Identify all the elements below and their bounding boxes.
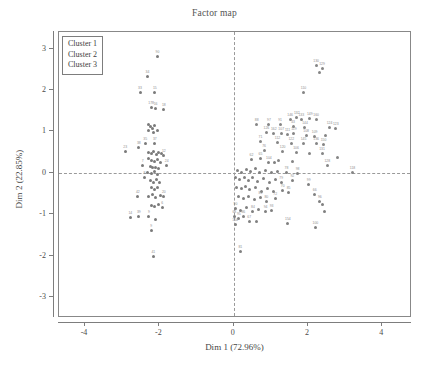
legend-item-cluster-1[interactable]: Cluster 1 — [68, 39, 97, 50]
data-point — [153, 91, 156, 94]
data-point — [274, 197, 277, 200]
data-point — [268, 181, 271, 184]
data-point — [291, 179, 294, 182]
legend: Cluster 1 Cluster 2 Cluster 3 — [62, 36, 103, 75]
data-point — [141, 164, 144, 167]
data-point — [328, 126, 331, 129]
data-point-label: 24 — [165, 160, 169, 164]
data-point — [303, 126, 306, 129]
data-point — [296, 172, 299, 175]
data-point — [238, 178, 241, 181]
data-point-label: 85 — [287, 188, 291, 192]
data-point-label: 93 — [270, 205, 274, 209]
data-point — [137, 146, 140, 149]
data-point — [156, 173, 159, 176]
y-tick-label: -1 — [39, 209, 46, 218]
data-point-label: 150 — [321, 140, 327, 144]
data-point — [162, 154, 165, 157]
data-point-label: 109 — [312, 131, 318, 135]
y-tick-label: -2 — [39, 250, 46, 259]
y-tick-label: 3 — [42, 43, 46, 52]
data-point — [165, 164, 168, 167]
data-point — [318, 71, 321, 74]
data-point-label: 70 — [281, 185, 285, 189]
data-point — [154, 218, 157, 221]
data-point — [280, 132, 283, 135]
data-point-label: 9 — [148, 211, 150, 215]
data-point-label: 122 — [288, 138, 294, 142]
data-point — [153, 142, 156, 145]
data-point — [264, 169, 267, 172]
data-point — [281, 189, 284, 192]
data-point — [243, 176, 246, 179]
data-point — [265, 200, 268, 203]
data-point — [242, 197, 245, 200]
data-point — [264, 210, 267, 213]
y-tick-label: 2 — [42, 85, 46, 94]
data-point — [286, 133, 289, 136]
data-point — [162, 108, 165, 111]
data-point — [307, 183, 310, 186]
data-point-label: 78 — [285, 167, 289, 171]
data-point-label: 72 — [273, 194, 277, 198]
x-tick — [84, 322, 85, 326]
data-point — [137, 215, 140, 218]
x-axis-label: Dim 1 (72.96%) — [58, 342, 411, 352]
data-point-label: 90 — [156, 51, 160, 55]
data-point — [150, 229, 153, 232]
data-point-label: 79 — [279, 178, 283, 182]
data-point-label: 67 — [247, 217, 251, 221]
data-point — [150, 106, 153, 109]
data-point — [315, 118, 318, 121]
data-point-label: 80 — [264, 196, 268, 200]
data-point — [153, 124, 156, 127]
data-point — [248, 220, 251, 223]
data-point-label: 35 — [143, 139, 147, 143]
data-point-label: 146 — [287, 114, 293, 118]
data-point-label: 9 — [150, 225, 152, 229]
data-point — [286, 222, 289, 225]
data-point-label: 98 — [296, 169, 300, 173]
data-point — [315, 64, 318, 67]
x-tick — [158, 322, 159, 326]
data-point — [156, 55, 159, 58]
legend-item-cluster-2[interactable]: Cluster 2 — [68, 50, 97, 61]
data-point — [315, 142, 318, 145]
data-point — [152, 181, 155, 184]
x-tick — [307, 322, 308, 326]
factor-map-figure: Factor map 90343315178161838353723127248… — [0, 0, 429, 366]
x-tick — [381, 322, 382, 326]
vertical-reference-line — [234, 32, 235, 316]
data-point — [254, 186, 257, 189]
data-point-label: 124 — [327, 122, 333, 126]
data-point — [157, 203, 160, 206]
data-point-label: 120 — [280, 146, 286, 150]
data-point-label: 144 — [302, 122, 308, 126]
legend-item-cluster-3[interactable]: Cluster 3 — [68, 60, 97, 71]
y-axis-label: Dim 2 (22.85%) — [14, 109, 24, 249]
data-point-label: 90 — [234, 203, 238, 207]
data-point-label: 39 — [137, 212, 141, 216]
data-point-label: 41 — [151, 252, 155, 256]
data-point — [321, 67, 324, 70]
data-point — [251, 176, 254, 179]
data-point — [240, 187, 243, 190]
data-point-label: 12 — [162, 150, 166, 154]
data-point — [158, 181, 161, 184]
y-tick-label: -3 — [39, 292, 46, 301]
data-point — [259, 140, 262, 143]
data-point-label: 88 — [255, 119, 259, 123]
data-point — [302, 91, 305, 94]
data-point — [287, 191, 290, 194]
data-point — [308, 117, 311, 120]
y-tick — [49, 48, 53, 49]
data-point — [247, 195, 250, 198]
data-point — [237, 195, 240, 198]
data-point-label: 133 — [298, 115, 304, 119]
data-point-label: 104 — [232, 219, 238, 223]
data-point-label: 126 — [263, 127, 269, 131]
data-point-label: 33 — [138, 88, 142, 92]
data-point-label: 106 — [293, 147, 299, 151]
data-point — [162, 195, 165, 198]
data-point-label: 91 — [278, 119, 282, 123]
